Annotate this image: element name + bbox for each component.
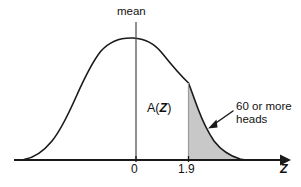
- distribution-plot: [0, 0, 301, 187]
- tail-annotation: 60 or more heads: [236, 100, 292, 125]
- annotation-arrowhead: [208, 120, 218, 129]
- tail-annotation-line-1: 60 or more: [236, 100, 292, 113]
- area-label-suffix: ): [167, 101, 171, 115]
- tick-label-1-9: 1.9: [178, 163, 195, 176]
- area-label-variable: Z: [160, 101, 168, 115]
- z-axis-label: Z: [280, 163, 288, 176]
- tick-label-0: 0: [131, 163, 138, 176]
- normal-distribution-figure: mean A(Z) 60 or more heads 0 1.9 Z: [0, 0, 301, 187]
- mean-label: mean: [117, 5, 146, 17]
- area-label-prefix: A(: [147, 101, 160, 115]
- area-function-label: A(Z): [147, 102, 171, 115]
- tail-annotation-line-2: heads: [236, 113, 292, 126]
